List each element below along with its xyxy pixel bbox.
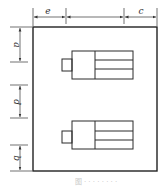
- layout-diagram: e c a d b 图 · · · · · · · ·: [0, 0, 162, 188]
- upper-unit-body: [72, 51, 133, 79]
- top-dimension: e c: [33, 6, 157, 26]
- lower-unit: [62, 121, 133, 149]
- left-dimension: a d b: [10, 27, 32, 171]
- label-c: c: [138, 6, 143, 16]
- figure-caption: 图 · · · · · · · ·: [75, 178, 118, 186]
- upper-unit: [62, 51, 133, 79]
- lower-unit-body: [72, 121, 133, 149]
- label-d: d: [12, 99, 22, 105]
- lower-unit-tab: [62, 131, 72, 143]
- label-b: b: [12, 155, 22, 161]
- label-a: a: [12, 42, 22, 47]
- label-e: e: [45, 6, 50, 16]
- upper-unit-tab: [62, 59, 72, 71]
